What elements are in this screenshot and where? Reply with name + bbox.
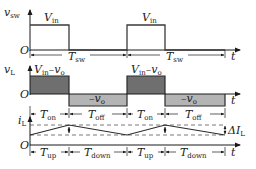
vsw-origin-label: O [20, 44, 29, 57]
vl-high-label-2: Vin–vo [131, 63, 162, 77]
vl-ton-label-2: Ton [137, 108, 154, 122]
vsw-y-label: vsw [4, 6, 20, 20]
vsw-waveform [30, 25, 225, 50]
vl-toff-label-2: Toff [185, 108, 203, 122]
vl-high-label-1: Vin–vo [34, 63, 65, 77]
vl-t-label: t [231, 94, 236, 107]
vsw-period-label-2: Tsw [166, 50, 183, 64]
il-tdown-label-1: Tdown [84, 146, 111, 160]
vsw-vin-label-2: Vin [142, 11, 157, 25]
vl-origin-label: O [20, 88, 29, 101]
il-origin-label: O [20, 139, 29, 152]
il-waveform [30, 125, 225, 135]
vsw-panel: vsw Vin Vin O Tsw Tsw t [4, 6, 240, 64]
vl-y-label: vL [4, 63, 15, 77]
buck-converter-waveform-diagram: vsw Vin Vin O Tsw Tsw t vL Vin–vo Vin–vo… [0, 0, 256, 169]
il-tup-label-1: Tup [40, 146, 57, 160]
vl-toff-label-1: Toff [88, 108, 106, 122]
il-y-label: iL [18, 114, 27, 128]
vsw-t-label: t [231, 50, 236, 63]
il-ripple-label: ΔIL [227, 124, 245, 138]
il-t-label: t [231, 146, 236, 159]
vl-panel: vL Vin–vo Vin–vo –vo –vo O t Ton Toff To… [4, 63, 240, 122]
il-tup-label-2: Tup [137, 146, 154, 160]
vsw-vin-label-1: Vin [44, 11, 59, 25]
vl-positive-region-2 [127, 76, 165, 94]
vsw-period-label-1: Tsw [68, 50, 85, 64]
vl-positive-region-1 [30, 76, 69, 94]
il-tdown-label-2: Tdown [180, 146, 207, 160]
vl-ton-label-1: Ton [40, 108, 57, 122]
